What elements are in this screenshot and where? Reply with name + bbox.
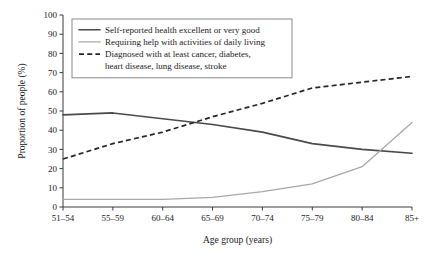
chart-figure: 0102030405060708090100 51–5455–5960–6465…: [0, 0, 429, 255]
y-tick-label: 90: [48, 29, 58, 39]
x-tick-label: 75–79: [301, 213, 324, 223]
y-tick-label: 80: [48, 49, 58, 59]
y-tick-label: 20: [48, 164, 58, 174]
x-tick-label: 85+: [405, 213, 419, 223]
y-axis-tick-labels: 0102030405060708090100: [44, 10, 58, 212]
y-tick-label: 30: [48, 145, 58, 155]
legend-label-1: Requiring help with activities of daily …: [105, 37, 265, 47]
legend-label-0: Self-reported health excellent or very g…: [105, 25, 260, 35]
chart-legend: Self-reported health excellent or very g…: [72, 19, 292, 78]
x-tick-label: 80–84: [351, 213, 374, 223]
x-tick-label: 51–54: [52, 213, 75, 223]
legend-label-2: heart disease, lung disease, stroke: [105, 61, 226, 71]
x-axis-title: Age group (years): [203, 235, 272, 246]
y-axis-title: Proportion of people (%): [17, 63, 28, 158]
series-line-2: [63, 76, 412, 159]
x-axis-tick-labels: 51–5455–5960–6465–6970–7475–7980–8485+: [52, 213, 419, 223]
x-tick-label: 55–59: [102, 213, 125, 223]
series-line-0: [63, 113, 412, 153]
chart-series: [63, 76, 412, 199]
legend-label-2: Diagnosed with at least cancer, diabetes…: [105, 49, 251, 59]
y-tick-label: 100: [44, 10, 58, 20]
y-axis-ticks: [60, 15, 64, 207]
x-tick-label: 70–74: [251, 213, 274, 223]
y-tick-label: 60: [48, 87, 58, 97]
y-tick-label: 10: [48, 183, 58, 193]
y-tick-label: 70: [48, 68, 58, 78]
y-tick-label: 0: [53, 202, 58, 212]
x-tick-label: 65–69: [201, 213, 224, 223]
y-tick-label: 40: [48, 125, 58, 135]
x-tick-label: 60–64: [151, 213, 174, 223]
series-line-1: [63, 123, 412, 200]
y-tick-label: 50: [48, 106, 58, 116]
x-axis-ticks: [63, 207, 412, 211]
line-chart: 0102030405060708090100 51–5455–5960–6465…: [0, 0, 429, 255]
